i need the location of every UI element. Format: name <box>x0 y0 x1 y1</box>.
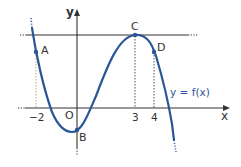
x-tick-label: 3 <box>132 111 139 123</box>
point-d <box>152 50 156 54</box>
y-axis-label: y <box>66 5 74 19</box>
point-c-label: C <box>131 20 139 33</box>
point-b-label: B <box>79 131 87 144</box>
function-graph-diagram: y x O −2 3 4 A B C D y = f(x) <box>0 0 241 167</box>
point-a <box>34 50 38 54</box>
point-d-label: D <box>157 41 165 54</box>
curve-label: y = f(x) <box>170 86 210 98</box>
point-c <box>133 33 137 37</box>
point-a-label: A <box>41 44 49 57</box>
x-tick-label: −2 <box>29 111 44 123</box>
origin-label: O <box>65 109 74 122</box>
x-axis-label: x <box>221 109 228 123</box>
y-axis-arrow-icon <box>74 9 80 16</box>
x-tick-label: 4 <box>151 111 158 123</box>
